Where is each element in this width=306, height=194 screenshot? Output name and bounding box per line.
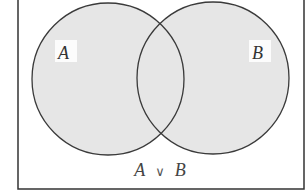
caption-left: A (133, 160, 146, 180)
or-operator-icon: ∨ (155, 164, 165, 179)
set-a-label: A (57, 43, 70, 63)
caption: A ∨ B (133, 160, 186, 180)
caption-right: B (175, 160, 186, 180)
venn-diagram: A B A ∨ B (0, 0, 306, 194)
set-b-fill (137, 2, 289, 154)
set-b-label: B (252, 43, 263, 63)
